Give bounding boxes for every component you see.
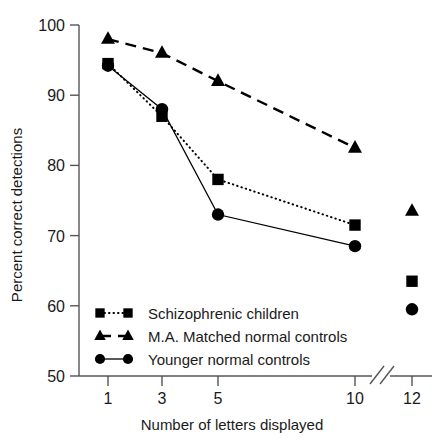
- chart-canvas: 100 90 80 70 60 50 Percent correct detec…: [0, 0, 436, 438]
- legend-item-0[interactable]: Schizophrenic children: [95, 305, 299, 322]
- chart-figure: 100 90 80 70 60 50 Percent correct detec…: [0, 0, 436, 438]
- legend-label-2: Younger normal controls: [148, 351, 310, 368]
- series-circle: [102, 60, 418, 316]
- legend-marker-square-1: [123, 308, 132, 317]
- x-axis-ticks: [108, 376, 412, 386]
- data-point-triangle-x1[interactable]: [101, 31, 115, 44]
- x-tick-label-12: 12: [403, 390, 421, 407]
- legend-marker-square-0: [95, 308, 104, 317]
- series-square: [102, 58, 417, 287]
- series-triangle: [101, 31, 419, 216]
- x-axis-title: Number of letters displayed: [141, 416, 324, 433]
- data-point-square-x5[interactable]: [212, 174, 223, 185]
- data-point-square-x10[interactable]: [349, 219, 360, 230]
- data-point-circle-x5[interactable]: [212, 208, 224, 220]
- x-tick-label-3: 3: [158, 390, 167, 407]
- y-tick-label-70: 70: [47, 228, 65, 245]
- data-point-circle-x3[interactable]: [156, 103, 168, 115]
- legend-marker-triangle-0: [94, 330, 105, 340]
- y-tick-label-60: 60: [47, 298, 65, 315]
- data-point-square-x12[interactable]: [406, 276, 417, 287]
- legend-item-2[interactable]: Younger normal controls: [95, 351, 310, 368]
- y-tick-label-90: 90: [47, 87, 65, 104]
- data-point-triangle-x12[interactable]: [405, 203, 419, 216]
- y-axis-ticks: [70, 25, 79, 376]
- x-tick-label-10: 10: [346, 390, 364, 407]
- chart-legend: Schizophrenic childrenM.A. Matched norma…: [94, 305, 347, 368]
- y-tick-label-80: 80: [47, 157, 65, 174]
- legend-item-1[interactable]: M.A. Matched normal controls: [94, 328, 347, 345]
- legend-label-0: Schizophrenic children: [148, 305, 299, 322]
- data-point-triangle-x10[interactable]: [348, 140, 362, 153]
- y-tick-label-50: 50: [47, 368, 65, 385]
- y-tick-label-100: 100: [38, 17, 65, 34]
- x-tick-label-5: 5: [214, 390, 223, 407]
- x-tick-label-1: 1: [104, 390, 113, 407]
- data-point-circle-x1[interactable]: [102, 60, 114, 72]
- y-axis-title: Percent correct detections: [8, 128, 25, 302]
- legend-marker-triangle-1: [122, 330, 133, 340]
- series-line-triangle: [108, 39, 355, 148]
- data-series-layer: [101, 31, 419, 315]
- x-axis-break-icon: [370, 366, 394, 384]
- series-line-circle: [108, 66, 355, 246]
- data-point-circle-x12[interactable]: [406, 303, 418, 315]
- legend-marker-circle-0: [95, 354, 105, 364]
- legend-label-1: M.A. Matched normal controls: [148, 328, 347, 345]
- data-point-triangle-x3[interactable]: [155, 45, 169, 58]
- legend-marker-circle-1: [123, 354, 133, 364]
- data-point-circle-x10[interactable]: [349, 240, 361, 252]
